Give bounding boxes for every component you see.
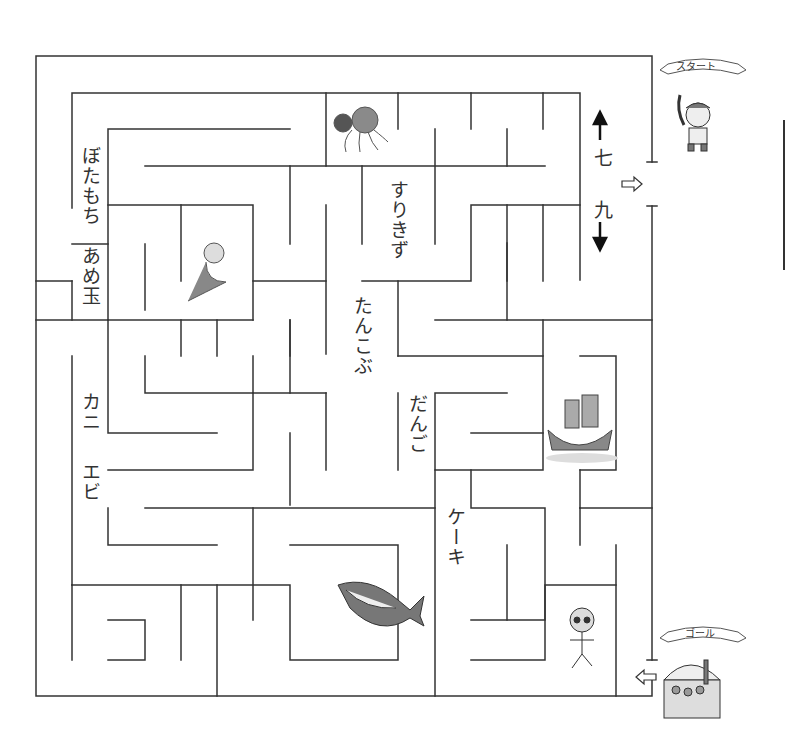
word-tankobu: たんこぶ bbox=[350, 296, 373, 376]
hint-down-label: 九 bbox=[590, 200, 613, 220]
pirate-ship-icon bbox=[546, 395, 618, 463]
word-dango: だんご bbox=[405, 394, 428, 454]
word-botamochi: ぼたもち bbox=[78, 146, 101, 226]
start-label: スタート bbox=[676, 58, 716, 73]
word-amedama: あめ玉 bbox=[78, 246, 101, 306]
outer-wall bbox=[36, 56, 652, 696]
pirate-boy-icon bbox=[679, 95, 710, 151]
skeleton-icon bbox=[570, 608, 594, 668]
octopus-icon bbox=[334, 107, 388, 152]
word-surikizu: すりきず bbox=[386, 180, 409, 260]
word-kani: カニ bbox=[78, 392, 101, 432]
hint-up-label: 七 bbox=[590, 148, 613, 168]
word-keeki: ケーキ bbox=[443, 507, 466, 567]
word-ebi: エビ bbox=[78, 462, 101, 502]
goal-arrow-icon bbox=[636, 670, 656, 684]
shark-icon bbox=[338, 582, 424, 626]
up-arrow-icon bbox=[594, 112, 606, 140]
start-arrow-icon bbox=[622, 177, 642, 191]
goal-label: ゴール bbox=[680, 625, 720, 640]
maze-board bbox=[0, 0, 785, 756]
down-arrow-icon bbox=[594, 222, 606, 250]
mermaid-icon bbox=[188, 243, 226, 301]
treasure-chest-icon bbox=[664, 660, 720, 718]
